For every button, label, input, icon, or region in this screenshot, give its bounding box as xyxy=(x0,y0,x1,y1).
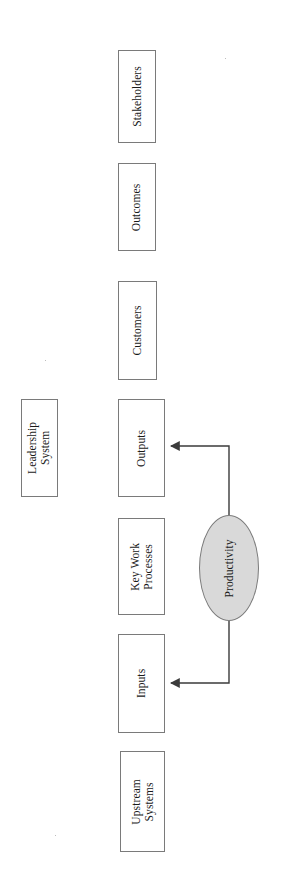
node-outputs[interactable]: Outputs xyxy=(118,399,165,497)
node-outcomes[interactable]: Outcomes xyxy=(118,163,156,251)
node-inputs[interactable]: Inputs xyxy=(118,634,165,733)
process-diagram-canvas: Stakeholders Outcomes Customers Leadersh… xyxy=(0,0,297,888)
node-key-work-processes[interactable]: Key Work Processes xyxy=(118,518,165,615)
node-customers[interactable]: Customers xyxy=(118,281,157,380)
node-leadership-system[interactable]: Leadership System xyxy=(21,399,58,497)
node-customers-label: Customers xyxy=(131,305,144,355)
node-productivity-label: Productivity xyxy=(223,539,236,597)
node-key-work-processes-label: Key Work Processes xyxy=(129,543,155,591)
node-stakeholders[interactable]: Stakeholders xyxy=(118,50,156,143)
scan-speck xyxy=(45,360,46,361)
node-upstream-systems[interactable]: Upstream Systems xyxy=(120,751,165,852)
node-outcomes-label: Outcomes xyxy=(131,183,144,230)
scan-speck xyxy=(55,835,56,836)
connector-productivity-to-inputs xyxy=(171,621,229,683)
node-inputs-label: Inputs xyxy=(135,669,148,698)
node-outputs-label: Outputs xyxy=(135,429,148,466)
node-stakeholders-label: Stakeholders xyxy=(131,66,144,127)
node-leadership-system-label: Leadership System xyxy=(27,422,53,474)
node-upstream-systems-label: Upstream Systems xyxy=(130,779,156,825)
node-productivity[interactable]: Productivity xyxy=(199,515,259,621)
connector-productivity-to-outputs xyxy=(171,446,229,515)
scan-speck xyxy=(225,58,226,59)
